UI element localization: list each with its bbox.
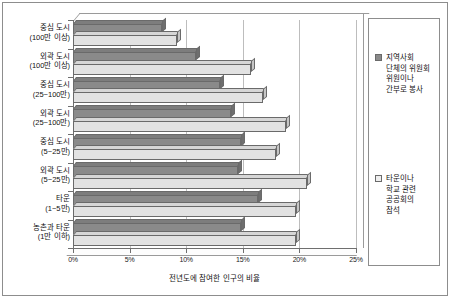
x-tick-label: 20% <box>293 256 306 263</box>
category-label: 중심 도시(25~100만) <box>0 80 70 99</box>
legend-label-line: 학교 관련 <box>386 185 416 196</box>
legend-label-line: 위원이나 <box>386 74 430 85</box>
bar-end-cap <box>251 57 255 71</box>
category-label-line2: (25~100만) <box>0 90 70 100</box>
category-label: 외곽 도시(100만 이상) <box>0 52 70 71</box>
bar-front-face <box>73 206 296 217</box>
legend-entry-label: 지역사회단체의 위원회위원이나간부로 봉사 <box>386 53 430 95</box>
x-tick-label: 0% <box>68 256 78 263</box>
category-label-line1: 외곽 도시 <box>40 52 70 61</box>
category-label: 외곽 도시(25~100만) <box>0 109 70 128</box>
x-tick-label: 10% <box>179 256 192 263</box>
category-label: 외곽 도시(5~25만) <box>0 166 70 185</box>
y-tick-mark <box>68 134 73 135</box>
x-tick-mark <box>356 248 357 253</box>
bar-end-cap <box>258 188 262 202</box>
category-label-line2: (5~25만) <box>0 175 70 185</box>
bar-front-face <box>73 121 286 132</box>
legend-label-line: 지역사회 <box>386 53 430 64</box>
category-label-line1: 중심 도시 <box>40 80 70 89</box>
bar-front-face <box>73 178 307 189</box>
x-tick-label: 5% <box>125 256 135 263</box>
y-tick-mark <box>68 248 73 249</box>
x-tick-label: 15% <box>236 256 249 263</box>
category-label: 중심 도시(100만 이상) <box>0 23 70 42</box>
y-tick-mark <box>68 220 73 221</box>
legend-label-line: 간부로 봉사 <box>386 85 430 96</box>
legend-entry-community-service[interactable]: 지역사회단체의 위원회위원이나간부로 봉사 <box>375 53 439 95</box>
x-tick-label: 25% <box>349 256 362 263</box>
x-axis-title: 전년도에 참여한 인구의 비율 <box>73 272 356 283</box>
bar <box>73 206 296 217</box>
gridline <box>299 20 300 248</box>
bar <box>73 121 286 132</box>
legend-swatch-icon <box>375 175 382 182</box>
y-tick-mark <box>68 191 73 192</box>
legend-label-line: 타운이나 <box>386 174 416 185</box>
gridline <box>356 20 357 248</box>
bar <box>73 178 307 189</box>
bar-end-cap <box>241 131 245 145</box>
category-label-line2: (1만 이하) <box>0 232 70 242</box>
category-label-line1: 중심 도시 <box>40 23 70 32</box>
legend-entry-public-meeting[interactable]: 타운이나학교 관련공공회의참석 <box>375 174 439 216</box>
legend: 지역사회단체의 위원회위원이나간부로 봉사 타운이나학교 관련공공회의참석 <box>368 18 440 266</box>
bar-front-face <box>73 149 276 160</box>
bar <box>73 149 276 160</box>
legend-entry-label: 타운이나학교 관련공공회의참석 <box>386 174 416 216</box>
bar <box>73 235 296 246</box>
legend-swatch-icon <box>375 54 382 61</box>
bar-front-face <box>73 64 251 75</box>
category-label-line1: 타운 <box>56 194 70 203</box>
category-label-line2: (1~5만) <box>0 204 70 214</box>
y-tick-mark <box>68 106 73 107</box>
bar <box>73 35 177 46</box>
category-label: 농촌과 타운(1만 이하) <box>0 223 70 242</box>
y-tick-mark <box>68 77 73 78</box>
legend-label-line: 공공회의 <box>386 195 416 206</box>
category-label-line1: 외곽 도시 <box>40 109 70 118</box>
category-label-line1: 외곽 도시 <box>40 166 70 175</box>
category-label-line2: (100만 이상) <box>0 61 70 71</box>
bar-front-face <box>73 235 296 246</box>
category-label: 중심 도시(5~25만) <box>0 137 70 156</box>
category-label-line2: (25~100만) <box>0 118 70 128</box>
category-label-line2: (5~25만) <box>0 147 70 157</box>
bar <box>73 64 251 75</box>
y-tick-mark <box>68 49 73 50</box>
legend-label-line: 참석 <box>386 206 416 217</box>
y-tick-mark <box>68 163 73 164</box>
category-label-line1: 농촌과 타운 <box>33 223 70 232</box>
category-label-line2: (100만 이상) <box>0 33 70 43</box>
category-label-line1: 중심 도시 <box>40 137 70 146</box>
bar-front-face <box>73 35 177 46</box>
legend-label-line: 단체의 위원회 <box>386 64 430 75</box>
category-label: 타운(1~5만) <box>0 194 70 213</box>
y-tick-mark <box>68 20 73 21</box>
x-axis-line <box>73 248 356 249</box>
plot-right-wall <box>356 13 364 248</box>
chart-container: 중심 도시(100만 이상)외곽 도시(100만 이상)중심 도시(25~100… <box>0 0 452 299</box>
plot-floor <box>66 248 363 256</box>
